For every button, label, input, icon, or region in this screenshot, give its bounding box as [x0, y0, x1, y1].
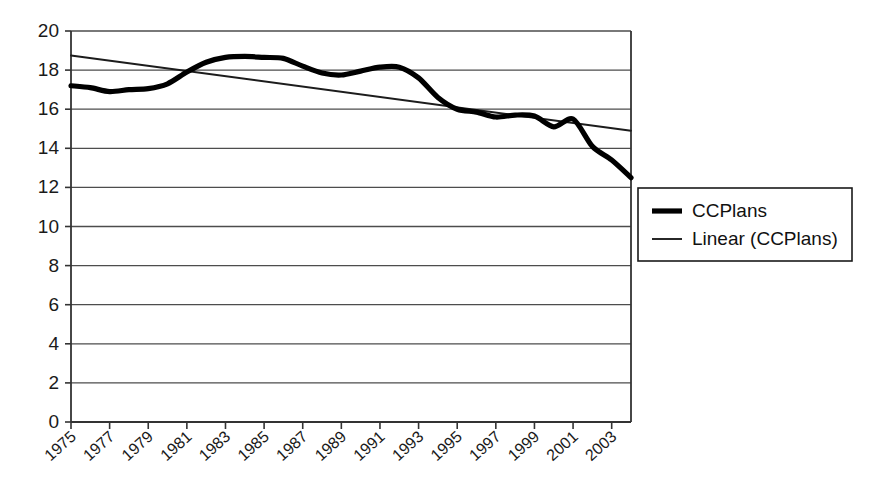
x-axis-labels-group: 1975197719791981198319851987198919911993…	[41, 428, 620, 465]
y-axis-tick-label: 8	[48, 255, 59, 276]
x-axis-tick-label: 1999	[505, 428, 543, 465]
y-axis-labels-group: 20181614121086420	[38, 20, 60, 432]
x-axis-tick-label: 1993	[389, 428, 427, 465]
x-axis-tick-label: 1989	[312, 428, 350, 465]
line-chart: 20181614121086420 1975197719791981198319…	[0, 0, 889, 496]
y-axis-tick-label: 14	[38, 137, 60, 158]
trendline-linear-ccplans	[71, 55, 631, 130]
x-axis-tick-label: 1985	[234, 428, 272, 465]
chart-figure: 20181614121086420 1975197719791981198319…	[0, 0, 889, 496]
y-axis-tick-label: 20	[38, 20, 59, 41]
x-axis-tick-label: 1983	[196, 428, 234, 465]
x-axis-tick-label: 1995	[427, 428, 465, 465]
legend-label-ccplans: CCPlans	[692, 200, 767, 221]
y-axis-tick-label: 16	[38, 98, 59, 119]
y-axis-tick-label: 18	[38, 59, 59, 80]
legend-box	[638, 188, 852, 261]
x-axis-tick-label: 1979	[118, 428, 156, 465]
x-axis-tick-label: 1975	[41, 428, 79, 465]
x-axis-tick-label: 1977	[80, 428, 118, 465]
y-axis-tick-label: 12	[38, 176, 59, 197]
x-axis-tick-label: 1991	[350, 428, 388, 465]
x-axis-tick-label: 1987	[273, 428, 311, 465]
y-axis-tick-label: 10	[38, 216, 59, 237]
chart-legend: CCPlans Linear (CCPlans)	[638, 188, 852, 261]
y-axis-tick-label: 2	[48, 372, 59, 393]
x-axis-tick-label: 2003	[582, 428, 620, 465]
y-axis-tick-label: 0	[48, 411, 59, 432]
y-axis-tick-label: 4	[48, 333, 59, 354]
legend-label-linear-ccplans: Linear (CCPlans)	[692, 228, 838, 249]
y-axis-tick-label: 6	[48, 294, 59, 315]
data-line-ccplans	[71, 56, 631, 177]
x-axis-tick-label: 1997	[466, 428, 504, 465]
x-axis-tick-label: 2001	[543, 428, 581, 465]
x-axis-tick-label: 1981	[157, 428, 195, 465]
